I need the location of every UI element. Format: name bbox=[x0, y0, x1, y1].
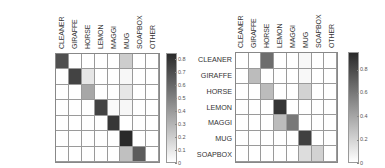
heatmap-cell bbox=[261, 84, 274, 100]
heatmap-cell bbox=[261, 146, 274, 162]
column-label: HORSE bbox=[263, 24, 270, 48]
column-label: MAGGI bbox=[289, 25, 296, 48]
heatmap-cell bbox=[299, 131, 312, 147]
heatmap-cell bbox=[324, 69, 337, 85]
confusion-matrix-right: CLEANERGIRAFFEHORSELEMONMAGGIMUGSOAPBOXO… bbox=[0, 0, 385, 168]
heatmap-cell bbox=[236, 146, 249, 162]
colorbar-tick-label: 0.2 bbox=[360, 136, 368, 142]
heatmap-cell bbox=[287, 131, 300, 147]
heatmap-cell bbox=[274, 146, 287, 162]
heatmap-cell bbox=[261, 131, 274, 147]
heatmap-cell bbox=[299, 69, 312, 85]
heatmap-cell bbox=[324, 131, 337, 147]
heatmap-cell bbox=[324, 146, 337, 162]
heatmap-cell bbox=[274, 131, 287, 147]
heatmap-cell bbox=[249, 115, 262, 131]
heatmap-cell bbox=[312, 146, 325, 162]
heatmap-cell bbox=[287, 69, 300, 85]
heatmap-cell bbox=[274, 84, 287, 100]
heatmap-cell bbox=[299, 146, 312, 162]
heatmap-cell bbox=[236, 115, 249, 131]
column-label: LEMON bbox=[276, 24, 283, 48]
row-label: MUG bbox=[215, 134, 232, 143]
heatmap-cell bbox=[287, 146, 300, 162]
heatmap-cell bbox=[312, 115, 325, 131]
colorbar-tick bbox=[357, 140, 359, 141]
colorbar-tick-label: 0.4 bbox=[360, 113, 368, 119]
heatmap-cell bbox=[274, 115, 287, 131]
row-label: SOAPBOX bbox=[197, 150, 232, 159]
heatmap-cell bbox=[274, 53, 287, 69]
heatmap-cell bbox=[274, 100, 287, 116]
heatmap-cell bbox=[261, 53, 274, 69]
row-label: LEMON bbox=[206, 103, 232, 112]
heatmap-cell bbox=[324, 53, 337, 69]
row-label: CLEANER bbox=[198, 55, 232, 64]
row-label: HORSE bbox=[206, 87, 232, 96]
heatmap-cell bbox=[261, 115, 274, 131]
heatmap-cell bbox=[236, 53, 249, 69]
heatmap-cell bbox=[236, 84, 249, 100]
heatmap-cell bbox=[312, 53, 325, 69]
heatmap-cell bbox=[274, 69, 287, 85]
heatmap-cell bbox=[249, 146, 262, 162]
heatmap-grid bbox=[235, 52, 338, 163]
colorbar-tick bbox=[357, 163, 359, 164]
heatmap-cell bbox=[287, 100, 300, 116]
heatmap-cell bbox=[312, 100, 325, 116]
colorbar-tick bbox=[357, 116, 359, 117]
colorbar-tick-label: 0 bbox=[360, 160, 363, 166]
column-label: OTHER bbox=[328, 24, 335, 48]
heatmap-cell bbox=[249, 53, 262, 69]
heatmap-cell bbox=[249, 84, 262, 100]
heatmap-cell bbox=[249, 69, 262, 85]
heatmap-cell bbox=[312, 84, 325, 100]
column-label: GIRAFFE bbox=[250, 18, 257, 48]
heatmap-cell bbox=[312, 131, 325, 147]
heatmap-cell bbox=[287, 84, 300, 100]
heatmap-cell bbox=[261, 100, 274, 116]
heatmap-cell bbox=[299, 53, 312, 69]
colorbar-tick-label: 0.8 bbox=[360, 66, 368, 72]
column-label: SOAPBOX bbox=[315, 14, 322, 48]
heatmap-cell bbox=[287, 53, 300, 69]
heatmap-cell bbox=[249, 131, 262, 147]
heatmap-cell bbox=[299, 84, 312, 100]
heatmap-cell bbox=[236, 69, 249, 85]
column-label: CLEANER bbox=[237, 16, 244, 48]
heatmap-cell bbox=[236, 100, 249, 116]
heatmap-cell bbox=[236, 131, 249, 147]
colorbar-tick-label: 0.6 bbox=[360, 89, 368, 95]
heatmap-cell bbox=[299, 115, 312, 131]
heatmap-cell bbox=[324, 100, 337, 116]
heatmap-cell bbox=[324, 84, 337, 100]
colorbar-tick bbox=[357, 70, 359, 71]
heatmap-cell bbox=[324, 115, 337, 131]
heatmap-cell bbox=[299, 100, 312, 116]
heatmap-cell bbox=[287, 115, 300, 131]
colorbar-tick bbox=[357, 93, 359, 94]
row-label: GIRAFFE bbox=[201, 71, 232, 80]
heatmap-cell bbox=[249, 100, 262, 116]
heatmap-cell bbox=[261, 69, 274, 85]
column-label: MUG bbox=[302, 32, 309, 48]
heatmap-cell bbox=[312, 69, 325, 85]
row-label: MAGGI bbox=[208, 118, 232, 127]
